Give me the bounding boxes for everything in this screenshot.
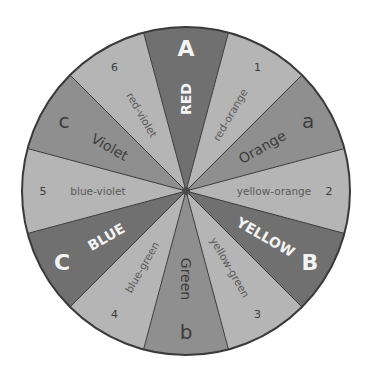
segment-marker: C [54, 250, 70, 275]
segment-marker: 6 [111, 61, 118, 74]
segment-marker: 3 [254, 308, 261, 321]
segment-marker: c [58, 109, 69, 133]
center-hub [182, 187, 190, 195]
segment-marker: 5 [40, 185, 47, 198]
segment-marker: a [302, 109, 314, 133]
segment-label: RED [178, 83, 194, 115]
segment-marker: B [301, 250, 318, 275]
color-wheel: REDAred-orange1Orangeayellow-orange2YELL… [0, 0, 372, 376]
segment-marker: A [177, 36, 194, 61]
segment-label: Green [178, 258, 194, 300]
segment-marker: 2 [326, 185, 333, 198]
segment-marker: 4 [111, 308, 118, 321]
segment-label: blue-violet [70, 185, 125, 197]
segment-marker: 1 [254, 61, 261, 74]
segment-label: yellow-orange [237, 185, 311, 197]
segment-marker: b [180, 320, 193, 344]
